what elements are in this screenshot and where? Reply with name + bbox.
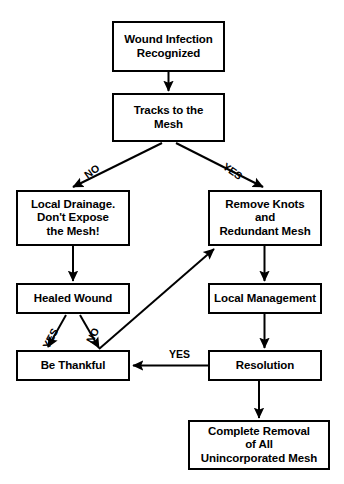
node-be-thankful: Be Thankful (16, 350, 130, 381)
node-tracks-to-mesh: Tracks to the Mesh (112, 93, 225, 142)
edge-tracks-to-local-drainage (73, 143, 162, 187)
node-local-management: Local Management (208, 283, 322, 314)
edge-tracks-to-remove-knots (176, 143, 263, 187)
node-complete-removal: Complete Removal of All Unincorporated M… (188, 420, 330, 470)
flowchart-canvas: Wound Infection Recognized Tracks to the… (0, 0, 344, 484)
node-local-drainage: Local Drainage. Don't Expose the Mesh! (16, 190, 130, 246)
edge-label-yes-resolution: YES (169, 349, 190, 360)
node-remove-knots: Remove Knots and Redundant Mesh (208, 190, 322, 246)
node-healed-wound: Healed Wound (16, 283, 130, 314)
node-resolution: Resolution (208, 350, 322, 381)
node-wound-infection: Wound Infection Recognized (112, 21, 225, 72)
